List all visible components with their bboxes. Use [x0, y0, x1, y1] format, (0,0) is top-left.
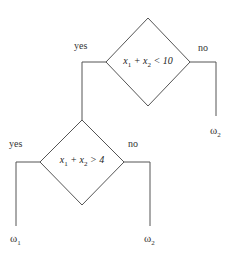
child-yes-label: yes [9, 138, 22, 149]
root-yes-label: yes [74, 40, 87, 51]
child-yes-branch [16, 162, 40, 226]
leaf-omega-2-bottom: ω2 [144, 232, 155, 247]
leaf-omega-2-top: ω2 [210, 124, 221, 139]
root-condition: x1 + x2 < 10 [123, 55, 172, 69]
child-no-label: no [128, 138, 138, 149]
root-no-label: no [198, 42, 208, 53]
child-condition: x1 + x2 > 4 [60, 154, 104, 168]
leaf-omega-1: ω1 [10, 232, 21, 247]
decision-tree-lines [0, 0, 233, 253]
root-yes-branch [82, 62, 106, 120]
root-no-branch [190, 62, 216, 116]
child-no-branch [124, 162, 150, 226]
